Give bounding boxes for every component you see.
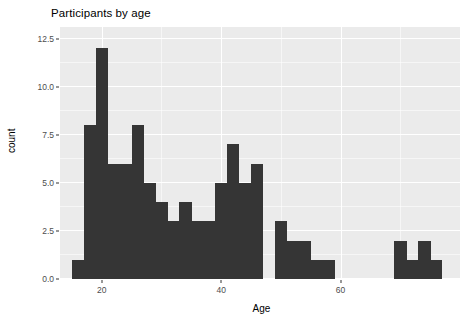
x-tick-label: 20 <box>97 285 106 295</box>
histogram-bar <box>418 241 430 279</box>
x-tick-label: 40 <box>216 285 225 295</box>
histogram-bar <box>156 202 168 279</box>
y-tick-label: 10.0 <box>37 82 54 92</box>
histogram-bar <box>251 164 263 279</box>
histogram-bar <box>167 221 179 279</box>
histogram-bar <box>84 125 96 279</box>
y-tick-mark <box>56 182 59 183</box>
histogram-bar <box>406 260 418 279</box>
histogram-bar <box>120 164 132 279</box>
plot-panel <box>60 27 460 279</box>
histogram-bar <box>203 221 215 279</box>
histogram-bar <box>215 183 227 279</box>
histogram-bar <box>287 241 299 279</box>
x-axis-label-text: Age <box>253 303 271 314</box>
x-tick-mark <box>101 280 102 283</box>
y-tick-mark <box>56 134 59 135</box>
histogram-bar <box>394 241 406 279</box>
y-tick-mark <box>56 230 59 231</box>
histogram-bar <box>323 260 335 279</box>
histogram-bar <box>191 221 203 279</box>
x-axis-label: Age <box>0 303 467 314</box>
x-tick-mark <box>340 280 341 283</box>
histogram-bar <box>108 164 120 279</box>
x-tick-label: 60 <box>336 285 345 295</box>
y-tick-label: 2.5 <box>42 226 54 236</box>
y-tick-label: 12.5 <box>37 34 54 44</box>
histogram-bar <box>311 260 323 279</box>
y-tick-label: 5.0 <box>42 178 54 188</box>
histogram-bar <box>430 260 442 279</box>
histogram-bar <box>239 183 251 279</box>
histogram-bar <box>179 202 191 279</box>
histogram-bar <box>299 241 311 279</box>
histogram-bar <box>275 221 287 279</box>
histogram-bar <box>96 48 108 279</box>
y-tick-label: 0.0 <box>42 274 54 284</box>
y-tick-mark <box>56 279 59 280</box>
y-tick-mark <box>56 86 59 87</box>
histogram-bar <box>132 125 144 279</box>
gridline-x-major <box>341 27 342 279</box>
histogram-bar <box>227 144 239 279</box>
histogram-bar <box>144 183 156 279</box>
y-tick-label: 7.5 <box>42 130 54 140</box>
y-axis-label: count <box>6 129 17 153</box>
histogram-figure: Participants by age 0.02.55.07.510.012.5… <box>0 0 467 330</box>
histogram-bar <box>72 260 84 279</box>
chart-title: Participants by age <box>51 7 151 19</box>
y-tick-mark <box>56 38 59 39</box>
x-tick-mark <box>221 280 222 283</box>
